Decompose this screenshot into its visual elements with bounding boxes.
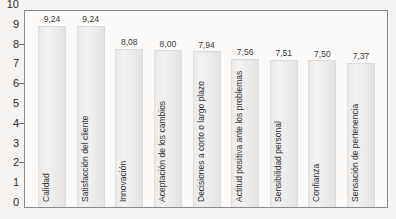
bar-chart: 10 9 8 7 6 5 4 3 2 1 0 9,24Calidad9,24Sa…: [0, 0, 396, 219]
bar-category-label: Calidad: [39, 173, 53, 202]
bar-group[interactable]: 7,56Actitud positiva ante los problemas: [231, 11, 259, 207]
bar-value-label: 9,24: [82, 15, 99, 24]
bar-group[interactable]: 7,94Decisiones a corto o largo plazo: [193, 11, 221, 207]
y-tick-label: 0: [13, 197, 19, 208]
bar-category-label-wrap: Sensibilidad personal: [270, 72, 298, 202]
bar-group[interactable]: 7,37Sensación de pertenencia: [347, 11, 375, 207]
bars-layer: 9,24Calidad9,24Satisfacción del cliente8…: [25, 11, 387, 207]
bar-category-label: Aceptación de los cambios: [155, 101, 169, 202]
bar-category-label-wrap: Confianza: [308, 72, 336, 202]
y-tick-label: 7: [13, 58, 19, 69]
bar-category-label-wrap: Sensación de pertenencia: [347, 72, 375, 202]
bar-value-label: 7,37: [353, 52, 370, 61]
y-tick-label: 5: [13, 98, 19, 109]
bar-category-label-wrap: Aceptación de los cambios: [154, 72, 182, 202]
bar-category-label-wrap: Actitud positiva ante los problemas: [231, 72, 259, 202]
bar-category-label: Actitud positiva ante los problemas: [232, 71, 246, 202]
bar-value-label: 9,24: [44, 15, 61, 24]
y-tick-label: 1: [13, 177, 19, 188]
plot-area: 9,24Calidad9,24Satisfacción del cliente8…: [24, 10, 388, 208]
bar-group[interactable]: 8,08Innovación: [115, 11, 143, 207]
chart-title: [40, 0, 340, 2]
bar-category-label: Decisiones a corto o largo plazo: [194, 81, 208, 202]
bar-category-label: Sensibilidad personal: [271, 121, 285, 202]
bar-value-label: 7,56: [237, 48, 254, 57]
bar-category-label: Sensación de pertenencia: [348, 104, 362, 202]
bar-value-label: 7,51: [275, 49, 292, 58]
bar-category-label: Satisfacción del cliente: [78, 116, 92, 202]
bar-category-label-wrap: Decisiones a corto o largo plazo: [193, 72, 221, 202]
bar-group[interactable]: 7,50Confianza: [308, 11, 336, 207]
y-tick-label: 9: [13, 18, 19, 29]
bar-value-label: 7,50: [314, 50, 331, 59]
bar-category-label: Confianza: [309, 164, 323, 202]
y-tick-label: 10: [7, 0, 19, 10]
bar-category-label-wrap: Innovación: [115, 72, 143, 202]
bar-value-label: 8,00: [160, 40, 177, 49]
bar-group[interactable]: 9,24Calidad: [38, 11, 66, 207]
y-tick-label: 3: [13, 137, 19, 148]
bar-group[interactable]: 8,00Aceptación de los cambios: [154, 11, 182, 207]
bar-category-label: Innovación: [116, 161, 130, 202]
bar-group[interactable]: 7,51Sensibilidad personal: [270, 11, 298, 207]
bar-group[interactable]: 9,24Satisfacción del cliente: [77, 11, 105, 207]
bar-category-label-wrap: Satisfacción del cliente: [77, 72, 105, 202]
bar-value-label: 7,94: [198, 41, 215, 50]
bar-category-label-wrap: Calidad: [38, 72, 66, 202]
bar-value-label: 8,08: [121, 38, 138, 47]
y-axis: 10 9 8 7 6 5 4 3 2 1 0: [0, 4, 22, 208]
